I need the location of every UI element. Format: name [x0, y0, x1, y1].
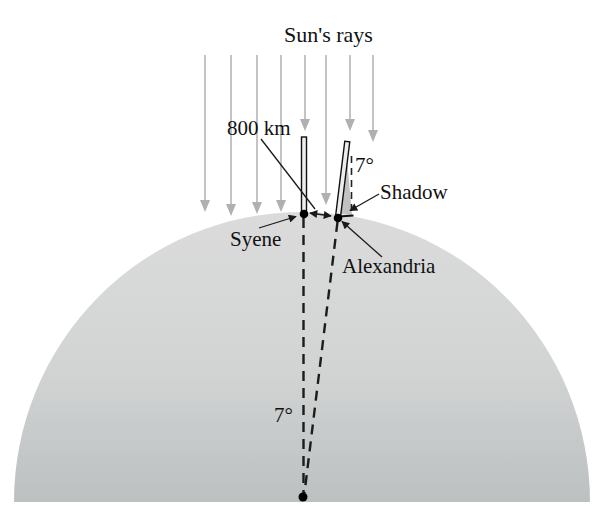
distance-label: 800 km: [227, 116, 291, 140]
sun-ray-arrow-icon: [300, 119, 310, 131]
shadow-label: Shadow: [380, 180, 449, 204]
syene-obelisk: [302, 137, 307, 214]
shadow-leader-line: [350, 194, 379, 211]
sun-ray-arrow-icon: [226, 204, 236, 216]
syene-label: Syene: [230, 227, 281, 251]
suns-rays-label: Sun's rays: [284, 22, 373, 47]
alexandria-label: Alexandria: [342, 254, 436, 278]
sun-ray: [200, 55, 210, 212]
sun-ray: [300, 55, 310, 131]
eratosthenes-diagram: Sun's rays 800 km 7° Shadow Syene Alexan…: [0, 0, 599, 520]
earth-hemisphere: [14, 212, 590, 502]
sun-ray-arrow-icon: [321, 193, 331, 205]
sun-ray: [345, 55, 355, 131]
shadow-angle-label: 7°: [355, 153, 374, 177]
sun-ray-arrow-icon: [200, 200, 210, 212]
sun-ray-arrow-icon: [345, 119, 355, 131]
sun-ray-arrow-icon: [368, 130, 378, 142]
center-angle-label: 7°: [274, 403, 293, 427]
diagram-svg: Sun's rays 800 km 7° Shadow Syene Alexan…: [0, 0, 599, 520]
earth-center-point: [299, 493, 308, 502]
syene-point: [300, 210, 309, 219]
sun-ray: [321, 55, 331, 205]
sun-ray-arrow-icon: [252, 202, 262, 214]
alexandria-point: [334, 214, 343, 223]
sun-ray-arrow-icon: [276, 200, 286, 212]
sun-ray: [368, 55, 378, 142]
